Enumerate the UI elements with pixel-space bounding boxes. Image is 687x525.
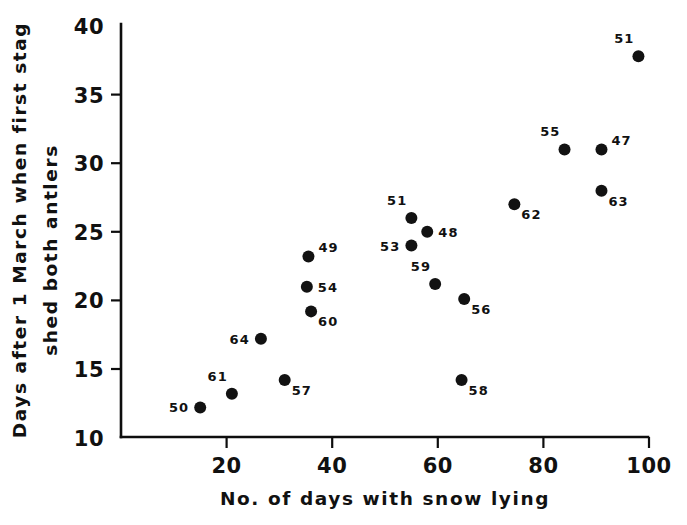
x-axis-title: No. of days with snow lying bbox=[220, 488, 550, 509]
data-point bbox=[279, 374, 291, 386]
data-point-label: 60 bbox=[318, 314, 338, 329]
x-tick-label: 20 bbox=[211, 454, 241, 478]
y-tick-label: 10 bbox=[74, 427, 104, 451]
data-point-label: 50 bbox=[169, 400, 189, 415]
data-point-group: 506164574954605153485956586255476351 bbox=[169, 31, 645, 415]
y-tick-label: 35 bbox=[74, 84, 104, 108]
data-point-label: 63 bbox=[608, 194, 628, 209]
data-point-label: 55 bbox=[540, 124, 560, 139]
y-axis-title-line2: shed both antlers bbox=[40, 144, 61, 356]
data-point bbox=[595, 143, 607, 155]
data-point bbox=[255, 333, 267, 345]
data-point bbox=[302, 250, 314, 262]
data-point-label: 58 bbox=[469, 383, 489, 398]
data-point bbox=[405, 212, 417, 224]
x-tick-label: 80 bbox=[528, 454, 558, 478]
y-tick-label: 40 bbox=[74, 15, 104, 39]
y-tick-label: 30 bbox=[74, 152, 104, 176]
x-tick-label: 60 bbox=[423, 454, 453, 478]
y-tick-label: 20 bbox=[74, 289, 104, 313]
x-tick-label: 100 bbox=[626, 454, 671, 478]
data-point-label: 64 bbox=[230, 332, 250, 347]
y-axis-title-line1: Days after 1 March when first stag bbox=[9, 22, 30, 438]
data-point bbox=[559, 143, 571, 155]
data-point bbox=[456, 374, 468, 386]
data-point bbox=[405, 240, 417, 252]
data-point-label: 53 bbox=[380, 239, 400, 254]
y-tick-label: 15 bbox=[74, 358, 104, 382]
data-point bbox=[595, 185, 607, 197]
data-point bbox=[429, 278, 441, 290]
data-point bbox=[226, 388, 238, 400]
data-point-label: 61 bbox=[208, 369, 228, 384]
data-point-label: 47 bbox=[611, 133, 631, 148]
data-point-label: 51 bbox=[387, 193, 407, 208]
y-axis-ticks: 10152025303540 bbox=[74, 15, 121, 451]
scatter-plot-figure: 10152025303540 20406080100 5061645749546… bbox=[0, 0, 687, 525]
x-tick-label: 40 bbox=[317, 454, 347, 478]
data-point-label: 54 bbox=[318, 280, 338, 295]
data-point bbox=[421, 226, 433, 238]
data-point-label: 62 bbox=[521, 207, 541, 222]
data-point bbox=[301, 281, 313, 293]
data-point-label: 57 bbox=[292, 383, 312, 398]
plot-canvas: 10152025303540 20406080100 5061645749546… bbox=[0, 0, 687, 525]
data-point-label: 51 bbox=[614, 31, 634, 46]
data-point-label: 48 bbox=[438, 225, 458, 240]
x-axis-ticks: 20406080100 bbox=[211, 437, 671, 478]
data-point bbox=[305, 305, 317, 317]
data-point bbox=[632, 50, 644, 62]
data-point bbox=[458, 293, 470, 305]
data-point bbox=[508, 198, 520, 210]
data-point-label: 59 bbox=[411, 259, 431, 274]
data-point-label: 49 bbox=[318, 240, 338, 255]
y-tick-label: 25 bbox=[74, 221, 104, 245]
data-point-label: 56 bbox=[471, 302, 491, 317]
data-point bbox=[194, 401, 206, 413]
